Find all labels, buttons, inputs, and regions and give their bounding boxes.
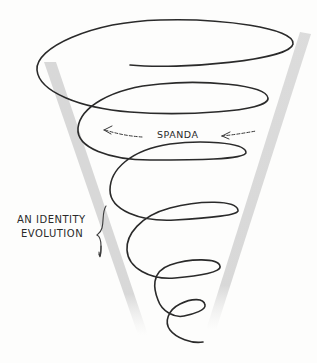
spanda-label: SPANDA	[157, 128, 198, 142]
identity-evolution-label: AN IDENTITY EVOLUTION	[17, 213, 86, 241]
identity-label-line1: AN IDENTITY	[17, 213, 86, 227]
identity-label-line2: EVOLUTION	[17, 227, 86, 241]
spiral-cone-diagram	[0, 0, 317, 363]
cone-right-stroke	[206, 32, 311, 330]
arrow-left-icon	[104, 126, 142, 137]
diagram-canvas: SPANDA AN IDENTITY EVOLUTION	[0, 0, 317, 363]
arrow-right-icon	[222, 131, 256, 139]
